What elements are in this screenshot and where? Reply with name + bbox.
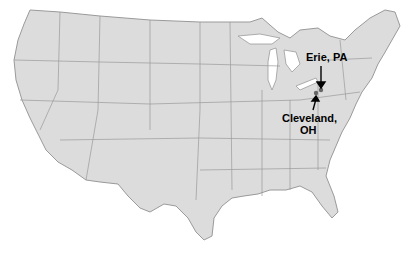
us-map: Erie, PA Cleveland, OH <box>0 0 417 255</box>
cleveland-marker <box>314 91 318 95</box>
erie-label: Erie, PA <box>306 51 347 63</box>
us-landmass <box>14 10 400 240</box>
us-map-shape <box>0 0 417 255</box>
cleveland-label-line2: OH <box>300 124 317 136</box>
cleveland-label-line1: Cleveland, <box>282 112 337 124</box>
